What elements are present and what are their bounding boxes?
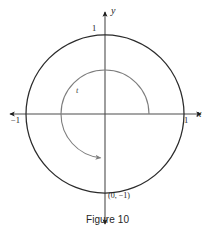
x-axis-tick-label-one: 1 [184,116,188,125]
x-axis-tick-label-negative-one: −1 [11,116,20,125]
y-axis-tick-label-one: 1 [92,24,96,33]
y-axis-label: y [111,6,115,16]
figure-container: y x 1 1 −1 t (0, −1) Figure 10 [0,0,215,232]
figure-caption: Figure 10 [0,214,215,225]
x-axis-label: x [197,109,201,119]
terminal-point-label: (0, −1) [108,192,130,200]
angle-label-t: t [76,86,78,95]
